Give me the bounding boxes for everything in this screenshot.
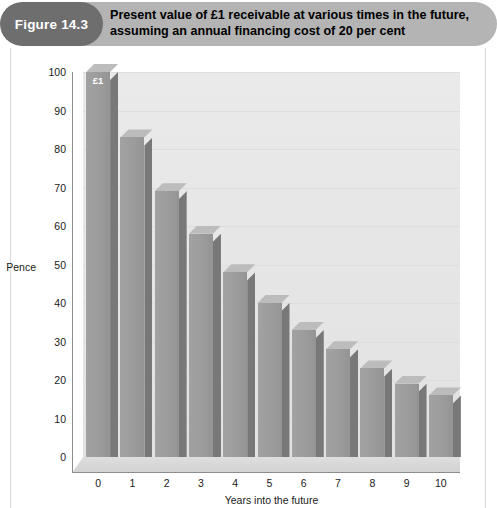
bar-column-side-face bbox=[453, 395, 461, 457]
x-tick-label: 1 bbox=[115, 477, 149, 489]
figure-number-label: Figure 14.3 bbox=[15, 17, 88, 32]
bar-column-side-face bbox=[282, 303, 290, 457]
bar-column-top-face bbox=[395, 376, 427, 384]
x-tick-label: 2 bbox=[150, 477, 184, 489]
bar-column-top-face bbox=[86, 64, 118, 72]
bar-column bbox=[429, 395, 453, 457]
bar-series: £1 bbox=[0, 48, 497, 496]
bar-chart: Pence 0102030405060708090100 £1 01234567… bbox=[0, 48, 497, 496]
bar-column bbox=[155, 191, 179, 457]
x-tick-label: 4 bbox=[218, 477, 252, 489]
bar-column-top-face bbox=[292, 322, 324, 330]
bar-column-top-face bbox=[120, 129, 152, 137]
x-tick-label: 5 bbox=[253, 477, 287, 489]
bar-column bbox=[120, 137, 144, 457]
bar-column bbox=[395, 384, 419, 457]
bar-column: £1 bbox=[86, 72, 110, 457]
bar-column bbox=[326, 349, 350, 457]
bar-column bbox=[292, 330, 316, 457]
x-tick-label: 6 bbox=[287, 477, 321, 489]
bar-column-side-face bbox=[110, 72, 118, 457]
x-tick-label: 8 bbox=[355, 477, 389, 489]
x-axis-tick-labels: 012345678910 bbox=[0, 477, 497, 493]
bar-column bbox=[258, 303, 282, 457]
bar-column-side-face bbox=[247, 272, 255, 457]
bar-column-side-face bbox=[213, 234, 221, 457]
bar-column-side-face bbox=[350, 349, 358, 457]
bar-column-top-face bbox=[155, 183, 187, 191]
x-tick-label: 7 bbox=[321, 477, 355, 489]
bar-column-top-face bbox=[258, 295, 290, 303]
x-tick-label: 0 bbox=[81, 477, 115, 489]
figure-title-line-2: assuming an annual financing cost of 20 … bbox=[110, 24, 488, 40]
x-tick-label: 10 bbox=[424, 477, 458, 489]
bar-column-side-face bbox=[419, 384, 427, 457]
bar-column bbox=[223, 272, 247, 457]
x-tick-label: 9 bbox=[390, 477, 424, 489]
figure-header-banner: Figure 14.3 Present value of £1 receivab… bbox=[0, 2, 497, 46]
bar-column-side-face bbox=[384, 368, 392, 457]
bar-column-top-face bbox=[189, 226, 221, 234]
bar-column-top-face bbox=[326, 341, 358, 349]
bar-column-side-face bbox=[316, 330, 324, 457]
figure-number-badge: Figure 14.3 bbox=[0, 2, 103, 46]
bar-column-top-face bbox=[223, 264, 255, 272]
bar-column bbox=[360, 368, 384, 457]
bottom-caption-sliver bbox=[12, 500, 482, 508]
bar-column-top-face bbox=[429, 387, 461, 395]
figure-title-line-1: Present value of £1 receivable at variou… bbox=[110, 8, 488, 24]
bar-column-top-face bbox=[360, 360, 392, 368]
bar-column-side-face bbox=[144, 137, 152, 457]
bar-column-side-face bbox=[179, 191, 187, 457]
bar-annotation-label: £1 bbox=[86, 75, 110, 86]
bar-column bbox=[189, 234, 213, 457]
x-tick-label: 3 bbox=[184, 477, 218, 489]
figure-title: Present value of £1 receivable at variou… bbox=[110, 8, 488, 39]
